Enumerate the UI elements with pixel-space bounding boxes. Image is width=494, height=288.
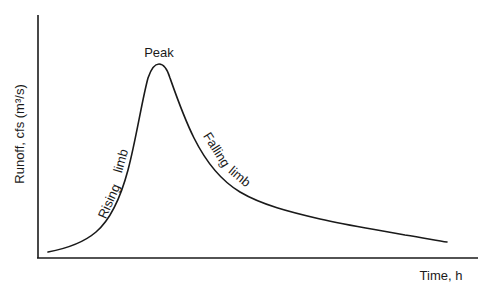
peak-label: Peak	[144, 45, 174, 60]
rising-limb-label-rising: Rising	[95, 182, 123, 221]
hydrograph-diagram: Runoff, cfs (m³/s) Time, h Peak Rising l…	[0, 0, 494, 288]
hydrograph-curve	[48, 64, 447, 252]
y-axis-label: Runoff, cfs (m³/s)	[12, 84, 27, 183]
x-axis-label: Time, h	[420, 268, 463, 283]
falling-limb-label-falling: Falling	[200, 129, 233, 169]
